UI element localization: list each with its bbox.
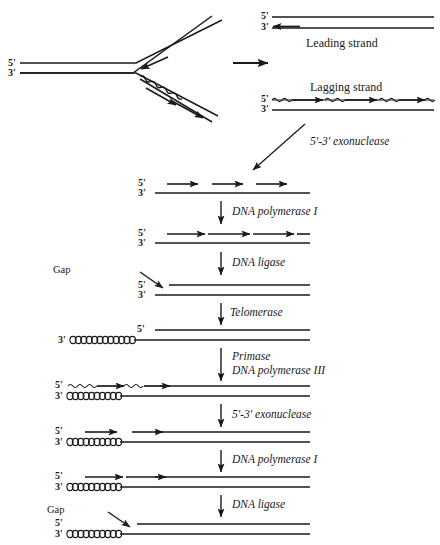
- fork-okazaki-arrow-1: [146, 88, 176, 105]
- state-gaps-filled-2: [67, 477, 310, 491]
- s1-bottom-prime-label: 3': [138, 188, 146, 198]
- lagging-strand-product: [272, 98, 435, 110]
- enzyme-label-telomerase: Telomerase: [230, 307, 283, 319]
- exonuclease-step-1: [253, 124, 305, 170]
- s5-primer-2: [124, 385, 143, 388]
- leading-strand-label: Leading strand: [306, 37, 378, 49]
- exonuclease-1-arrow: [253, 124, 305, 170]
- leading-strand-product: [272, 17, 434, 28]
- gap-label-2: Gap: [47, 505, 65, 516]
- state-gaps-filled: [155, 234, 310, 243]
- fork-strand-upper-split: [20, 16, 212, 73]
- s3-bottom-prime-label: 3': [138, 290, 146, 300]
- s8-bottom-prime-label: 3': [55, 529, 63, 539]
- enzyme-label-ligase-2: DNA ligase: [232, 499, 285, 511]
- lagging-bottom-prime-label: 3': [261, 104, 269, 114]
- state-primers-removed-2: [67, 432, 310, 446]
- s8-top-prime-label: 5': [55, 518, 63, 528]
- fork-okazaki-arrow-2: [172, 101, 203, 118]
- s7-telomere-repeats: [67, 483, 122, 490]
- fork-bottom-prime-label: 3': [8, 68, 16, 78]
- s6-telomere-repeats: [67, 438, 122, 445]
- enzyme-label-pol3: DNA polymerase III: [232, 365, 325, 377]
- s6-bottom-prime-label: 3': [55, 437, 63, 447]
- s2-bottom-prime-label: 3': [138, 238, 146, 248]
- s4-bottom-prime-label: 3': [58, 335, 66, 345]
- state-new-primers: [67, 385, 310, 400]
- fork-strand-lower-split: [140, 79, 212, 122]
- s7-bottom-prime-label: 3': [55, 482, 63, 492]
- enzyme-label-pol1-2: DNA polymerase I: [232, 454, 317, 466]
- state-ligated-gap: [140, 272, 310, 295]
- enzyme-label-primase: Primase: [232, 351, 270, 363]
- leading-top-prime-label: 5': [261, 11, 269, 21]
- fork-template-top: [20, 20, 222, 63]
- s5-primer-1: [68, 385, 97, 388]
- replication-fork: [20, 16, 268, 122]
- s5-top-prime-label: 5': [55, 380, 63, 390]
- lagging-strand-label: Lagging strand: [310, 81, 382, 93]
- enzyme-label-ligase-1: DNA ligase: [232, 257, 285, 269]
- s4-top-prime-label: 5': [137, 324, 145, 334]
- state-final: [67, 512, 310, 538]
- s5-telomere-repeats: [67, 392, 122, 399]
- s6-top-prime-label: 5': [55, 426, 63, 436]
- enzyme-label-pol1-1: DNA polymerase I: [232, 206, 317, 218]
- leading-bottom-prime-label: 3': [261, 22, 269, 32]
- enzyme-label-exonuclease-2: 5'-3' exonuclease: [232, 409, 311, 421]
- s8-telomere-repeats: [67, 530, 122, 537]
- state-primers-removed: [155, 184, 310, 193]
- s7-top-prime-label: 5': [55, 471, 63, 481]
- s4-telomere-repeats: [70, 336, 136, 343]
- state-telomere-extended: [70, 330, 310, 344]
- enzyme-label-exonuclease-1: 5'-3' exonuclease: [310, 136, 389, 148]
- s5-bottom-prime-label: 3': [55, 391, 63, 401]
- gap-label-1: Gap: [53, 265, 71, 276]
- gap-pointer-arrow-2: [108, 512, 130, 527]
